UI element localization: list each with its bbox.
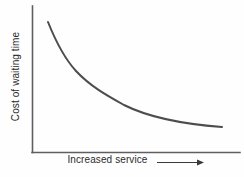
cost-of-waiting-time-curve <box>48 22 222 127</box>
chart-figure: Cost of waiting time Increased service <box>0 0 244 177</box>
plot-area <box>0 0 244 177</box>
